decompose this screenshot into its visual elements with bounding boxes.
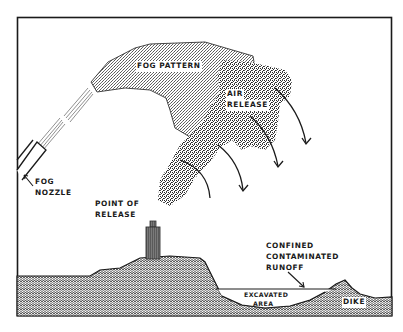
diagram-canvas: FOG PATTERN AIR RELEASE FOG NOZZLE POINT… bbox=[0, 0, 403, 332]
label-excavated-line1: EXCAVATED bbox=[244, 291, 288, 300]
ground-terrain bbox=[17, 256, 392, 316]
gas-cylinder bbox=[146, 221, 160, 259]
fog-nozzle bbox=[17, 140, 46, 180]
spray-streaks bbox=[37, 88, 93, 150]
label-excavated-line2: AREA bbox=[253, 300, 274, 309]
label-point-of-release-line1: POINT OF bbox=[95, 199, 139, 210]
label-air-release-line2: RELEASE bbox=[226, 100, 269, 111]
label-runoff-line1: CONFINED bbox=[266, 241, 314, 252]
label-fog-pattern: FOG PATTERN bbox=[136, 61, 202, 72]
label-fog-nozzle-line2: NOZZLE bbox=[35, 188, 72, 199]
label-fog-nozzle-line1: FOG bbox=[35, 177, 54, 188]
label-runoff-line3: RUNOFF bbox=[266, 263, 304, 274]
label-runoff-line2: CONTAMINATED bbox=[266, 252, 339, 263]
label-air-release-line1: AIR bbox=[226, 89, 244, 100]
arrow-icon bbox=[218, 145, 243, 190]
runoff-pointer bbox=[288, 272, 304, 287]
diagram-illustration bbox=[0, 0, 403, 332]
label-point-of-release-line2: RELEASE bbox=[95, 210, 136, 221]
label-dike: DIKE bbox=[342, 297, 366, 308]
fog-nozzle-pointer bbox=[24, 175, 33, 186]
